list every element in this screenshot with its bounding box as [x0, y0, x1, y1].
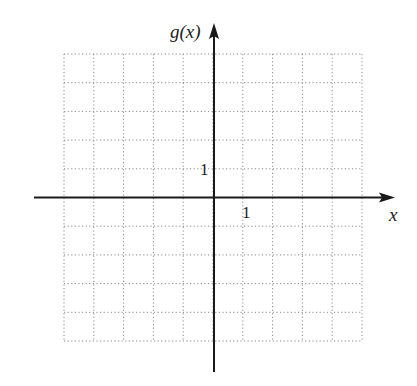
x-tick-label-1: 1 — [242, 203, 251, 222]
y-tick-label-1: 1 — [200, 160, 209, 179]
y-axis-label: g(x) — [170, 21, 201, 43]
x-axis-label: x — [388, 204, 398, 225]
coordinate-plane: g(x) x 1 1 — [0, 0, 417, 386]
